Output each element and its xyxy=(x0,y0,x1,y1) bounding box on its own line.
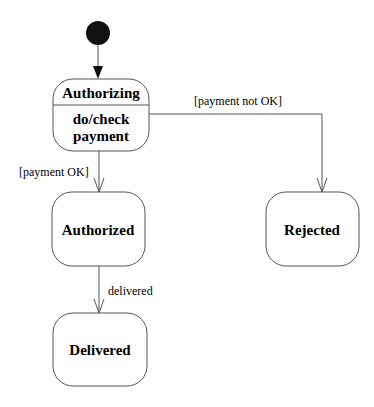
state-delivered: Delivered xyxy=(53,313,147,386)
state-name: Authorized xyxy=(62,222,135,238)
state-name: Delivered xyxy=(69,342,131,358)
transition-payment-not-ok xyxy=(149,114,322,192)
arrowhead-icon xyxy=(93,66,103,79)
transition-label: [payment not OK] xyxy=(194,94,282,108)
state-rejected: Rejected xyxy=(266,192,359,266)
initial-state-node xyxy=(86,21,110,45)
transition-label: delivered xyxy=(108,284,153,298)
state-name: Rejected xyxy=(284,222,340,238)
state-diagram: Authorizing do/check payment [payment OK… xyxy=(0,0,374,407)
state-activity: do/check xyxy=(73,111,130,127)
transition-label: [payment OK] xyxy=(19,165,89,179)
state-authorized: Authorized xyxy=(52,192,145,266)
state-authorizing: Authorizing do/check payment xyxy=(53,79,149,151)
state-activity: payment xyxy=(73,128,129,144)
state-name: Authorizing xyxy=(62,85,140,101)
